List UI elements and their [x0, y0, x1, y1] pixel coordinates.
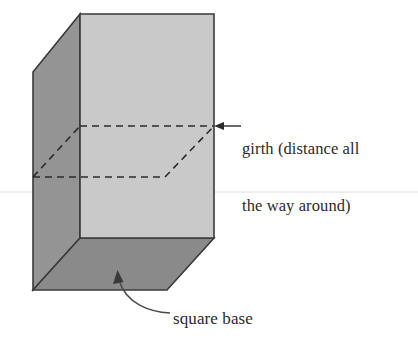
girth-label-line-2: the way around) — [242, 196, 418, 215]
square-base-label: square base — [173, 309, 313, 328]
girth-arrowhead-icon — [214, 122, 224, 130]
girth-arrow — [214, 122, 241, 130]
girth-label: girth (distance all the way around) — [242, 101, 418, 253]
girth-label-line-1: girth (distance all — [242, 139, 418, 158]
figure-canvas: girth (distance all the way around) squa… — [0, 0, 418, 340]
